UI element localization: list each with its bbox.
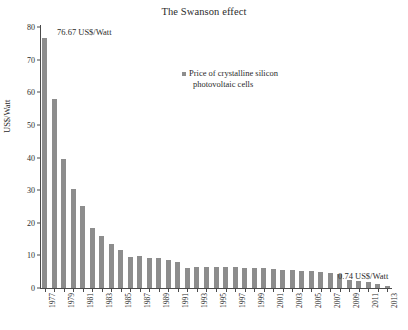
x-tick-mark (45, 289, 46, 292)
bar (375, 284, 380, 288)
bar (252, 268, 257, 288)
bar (166, 260, 171, 288)
bar (99, 236, 104, 288)
x-tick-mark (378, 289, 379, 292)
x-tick-mark (368, 289, 369, 292)
x-tick-mark (149, 289, 150, 292)
x-tick-mark (340, 289, 341, 292)
x-tick-mark (83, 289, 84, 292)
x-tick-mark (206, 289, 207, 292)
bar (194, 267, 199, 288)
x-tick-mark (292, 289, 293, 292)
x-tick-mark (130, 289, 131, 292)
x-tick-label: 1997 (238, 293, 247, 308)
x-tick-mark (311, 289, 312, 292)
bar (385, 286, 390, 288)
x-tick-mark (216, 289, 217, 292)
x-tick-label: 1979 (67, 293, 76, 308)
legend-label-line1: Price of crystalline silicon (189, 68, 278, 78)
x-tick-mark (73, 289, 74, 292)
x-tick-label: 1989 (162, 293, 171, 308)
bar (42, 38, 47, 288)
bar (137, 256, 142, 288)
chart-legend: Price of crystalline silicon photovoltai… (182, 68, 278, 90)
bar (175, 262, 180, 288)
x-tick-mark (283, 289, 284, 292)
x-tick-mark (245, 289, 246, 292)
x-tick-mark (321, 289, 322, 292)
legend-swatch-icon (182, 72, 186, 76)
x-tick-mark (226, 289, 227, 292)
bar-series (40, 27, 392, 288)
chart-figure: The Swanson effect US$/Watt 010203040506… (0, 0, 408, 330)
bar (280, 270, 285, 288)
chart-title: The Swanson effect (0, 6, 408, 17)
x-tick-mark (302, 289, 303, 292)
x-tick-mark (254, 289, 255, 292)
x-tick-label: 1993 (200, 293, 209, 308)
bar (204, 267, 209, 288)
x-tick-mark (197, 289, 198, 292)
x-tick-mark (121, 289, 122, 292)
legend-label-line2: photovoltaic cells (189, 79, 278, 90)
x-tick-mark (187, 289, 188, 292)
bar (299, 271, 304, 288)
x-tick-label: 1981 (86, 293, 95, 308)
x-tick-label: 2005 (314, 293, 323, 308)
bar (309, 271, 314, 288)
bar (261, 268, 266, 288)
annotation-last-value: 0.74 US$/Watt (338, 271, 388, 281)
bar (366, 282, 371, 288)
bar (52, 99, 57, 288)
x-tick-label: 1983 (105, 293, 114, 308)
x-tick-label: 2007 (333, 293, 342, 308)
x-tick-mark (111, 289, 112, 292)
x-tick-label: 2011 (371, 293, 380, 308)
plot-area: 01020304050607080 (40, 27, 392, 288)
bar (185, 268, 190, 288)
bar (147, 258, 152, 288)
bar (71, 189, 76, 289)
x-tick-mark (168, 289, 169, 292)
x-tick-mark (235, 289, 236, 292)
x-tick-label: 2001 (276, 293, 285, 308)
x-tick-mark (140, 289, 141, 292)
x-tick-label: 1995 (219, 293, 228, 308)
x-tick-mark (92, 289, 93, 292)
x-tick-mark (159, 289, 160, 292)
bar (80, 206, 85, 288)
bar (128, 257, 133, 288)
x-tick-mark (387, 289, 388, 292)
bar (90, 228, 95, 288)
bar (233, 267, 238, 288)
bar (290, 270, 295, 288)
x-tick-label: 1991 (181, 293, 190, 308)
x-axis-ticks: 1977197919811983198519871989199119931995… (40, 289, 392, 330)
bar (109, 244, 114, 288)
x-tick-mark (359, 289, 360, 292)
bar (61, 159, 66, 288)
bar (347, 280, 352, 288)
bar (214, 267, 219, 288)
bar (242, 268, 247, 288)
annotation-first-value: 76.67 US$/Watt (57, 27, 112, 37)
x-tick-label: 1999 (257, 293, 266, 308)
legend-label: Price of crystalline silicon photovoltai… (189, 68, 278, 90)
bar (271, 269, 276, 288)
x-tick-mark (330, 289, 331, 292)
x-tick-mark (178, 289, 179, 292)
x-tick-mark (102, 289, 103, 292)
x-tick-label: 2013 (390, 293, 399, 308)
bar (318, 272, 323, 288)
bar (223, 267, 228, 288)
x-tick-label: 1987 (143, 293, 152, 308)
x-tick-label: 1977 (48, 293, 57, 308)
x-tick-label: 2009 (352, 293, 361, 308)
x-tick-label: 2003 (295, 293, 304, 308)
x-tick-mark (349, 289, 350, 292)
x-tick-mark (264, 289, 265, 292)
bar (328, 273, 333, 288)
y-axis-label: US$/Watt (2, 100, 12, 133)
bar (156, 258, 161, 288)
x-tick-label: 1985 (124, 293, 133, 308)
